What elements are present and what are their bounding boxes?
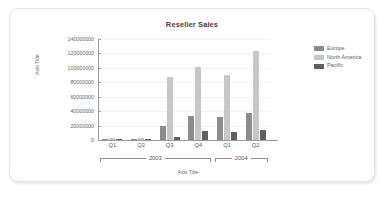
legend-item[interactable]: North America	[314, 54, 361, 61]
bar-groups	[98, 39, 278, 140]
bar[interactable]	[231, 132, 237, 140]
bar-group	[159, 39, 181, 140]
chart-legend: EuropeNorth AmericaPacific	[314, 45, 361, 71]
y-axis-tick-mark	[98, 126, 101, 127]
y-axis-tick-label: 100000000	[67, 65, 94, 71]
y-axis-tick-label: 120000000	[67, 50, 94, 56]
y-axis-tick-label: 0	[91, 137, 94, 143]
x-axis-title: Axis Title	[98, 169, 278, 175]
x-axis-group-brackets: 20032004	[98, 155, 278, 166]
y-axis-tick-mark	[98, 39, 101, 40]
bar[interactable]	[188, 116, 194, 140]
y-axis-tick-label: 20000000	[70, 123, 94, 129]
bar-group	[216, 39, 238, 140]
x-axis-group-bracket: 2003	[100, 158, 211, 165]
legend-label: North America	[327, 55, 361, 60]
legend-swatch-icon	[314, 46, 324, 51]
bar-group	[101, 39, 123, 140]
bar[interactable]	[174, 137, 180, 140]
bar-group	[245, 39, 267, 140]
bar-group	[187, 39, 209, 140]
x-axis-group-label: 2003	[100, 155, 211, 161]
x-axis-category-label: Q2	[244, 142, 268, 148]
bar[interactable]	[253, 51, 259, 140]
bar[interactable]	[145, 139, 151, 140]
bar[interactable]	[217, 117, 223, 140]
chart-card: Reseller Sales Axis Title 02000000040000…	[9, 8, 375, 182]
x-axis-category-label: Q1	[215, 142, 239, 148]
legend-swatch-icon	[314, 55, 324, 60]
bar[interactable]	[167, 77, 173, 140]
bar[interactable]	[109, 138, 115, 140]
x-axis-group-bracket: 2004	[215, 158, 268, 165]
x-axis-category-label: Q3	[158, 142, 182, 148]
legend-item[interactable]: Pacific	[314, 63, 361, 70]
legend-label: Europe	[327, 46, 344, 51]
legend-label: Pacific	[327, 63, 343, 68]
y-axis-tick-mark	[98, 97, 101, 98]
bar[interactable]	[102, 139, 108, 140]
bar[interactable]	[195, 67, 201, 140]
chart-title: Reseller Sales	[10, 20, 374, 29]
y-axis-tick-mark	[98, 82, 101, 83]
legend-item[interactable]: Europe	[314, 45, 361, 52]
bar[interactable]	[224, 75, 230, 140]
y-axis-tick-mark	[98, 53, 101, 54]
x-axis-group-label: 2004	[215, 155, 268, 161]
bar[interactable]	[138, 138, 144, 140]
chart-area: Reseller Sales Axis Title 02000000040000…	[10, 9, 374, 181]
y-axis-tick-label: 140000000	[67, 36, 94, 42]
x-axis-category-label: Q4	[186, 142, 210, 148]
bar-group	[130, 39, 152, 140]
bar[interactable]	[116, 139, 122, 140]
y-axis-tick-label: 60000000	[70, 94, 94, 100]
x-axis-category-label: Q2	[129, 142, 153, 148]
y-axis-tick-labels: 0200000004000000060000000800000001000000…	[10, 39, 94, 140]
bar[interactable]	[260, 130, 266, 140]
bar[interactable]	[202, 131, 208, 140]
y-axis-tick-mark	[98, 111, 101, 112]
x-axis-category-label: Q1	[100, 142, 124, 148]
bar[interactable]	[246, 113, 252, 140]
x-axis-line	[98, 140, 278, 141]
bar[interactable]	[131, 139, 137, 140]
bar[interactable]	[160, 126, 166, 140]
y-axis-tick-mark	[98, 68, 101, 69]
y-axis-tick-label: 80000000	[70, 79, 94, 85]
legend-swatch-icon	[314, 64, 324, 69]
y-axis-tick-label: 40000000	[70, 108, 94, 114]
y-axis-tick-mark	[98, 140, 101, 141]
x-axis-category-labels: Q1Q2Q3Q4Q1Q2	[98, 142, 278, 152]
